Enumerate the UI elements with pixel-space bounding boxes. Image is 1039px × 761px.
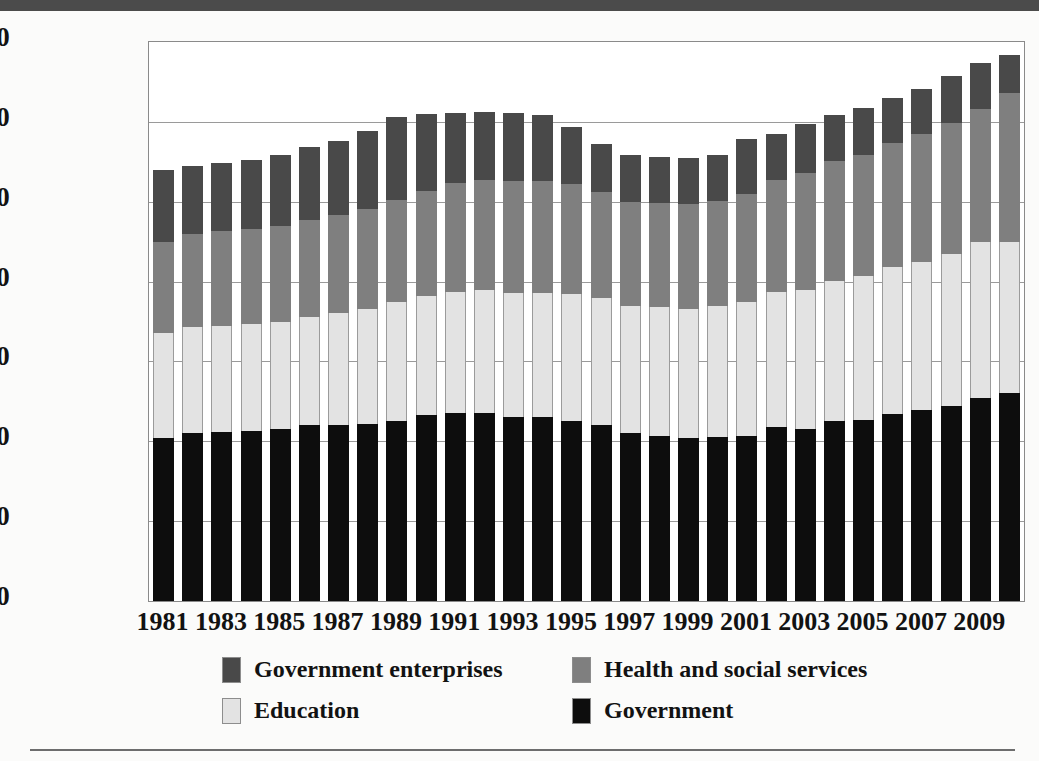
legend-swatch-icon	[572, 657, 591, 683]
bar-segment-government-enterprises	[766, 134, 787, 180]
bar-segment-government-enterprises	[153, 170, 174, 242]
chart-figure: 3,500,0003,000,0002,500,0002,000,0001,50…	[0, 11, 1039, 761]
legend-item-health: Health and social services	[572, 656, 922, 683]
bar-segment-education	[591, 298, 612, 425]
legend-item-education: Education	[222, 697, 572, 724]
bar-segment-education	[474, 290, 495, 413]
bar-segment-health-and-social-services	[445, 183, 466, 292]
bar-1994	[532, 115, 553, 601]
bar-2002	[766, 134, 787, 601]
legend-item-enterprises: Government enterprises	[222, 656, 572, 683]
bar-segment-education	[678, 309, 699, 438]
bar-segment-education	[445, 292, 466, 413]
bar-segment-government	[911, 410, 932, 601]
bar-segment-government	[474, 413, 495, 601]
bar-segment-government-enterprises	[182, 166, 203, 235]
bar-segment-health-and-social-services	[503, 181, 524, 293]
y-axis-tick-label: 1,000,000	[0, 421, 10, 452]
bar-segment-government-enterprises	[211, 163, 232, 232]
bar-segment-government-enterprises	[853, 108, 874, 154]
bar-1991	[445, 113, 466, 601]
bar-segment-government-enterprises	[795, 124, 816, 174]
x-axis-tick-label: 1999	[662, 607, 714, 637]
y-axis-tick-label: 500,000	[0, 501, 10, 532]
legend-label: Government	[604, 697, 733, 724]
bar-segment-government	[328, 425, 349, 601]
x-axis-tick-label: 1981	[137, 607, 189, 637]
legend-label: Health and social services	[604, 656, 867, 683]
bar-1993	[503, 113, 524, 601]
bar-segment-government-enterprises	[591, 144, 612, 192]
bar-1990	[416, 114, 437, 601]
bar-1996	[591, 144, 612, 601]
bar-segment-government-enterprises	[474, 112, 495, 180]
bar-2007	[911, 89, 932, 601]
bar-1986	[299, 147, 320, 601]
bar-segment-government-enterprises	[561, 127, 582, 184]
bar-segment-government-enterprises	[941, 76, 962, 122]
bar-segment-government	[999, 393, 1020, 601]
bar-segment-government	[153, 438, 174, 601]
bar-segment-health-and-social-services	[241, 229, 262, 324]
x-axis-tick-label: 2007	[895, 607, 947, 637]
bar-segment-health-and-social-services	[999, 93, 1020, 242]
bar-segment-education	[270, 322, 291, 430]
bar-segment-government-enterprises	[416, 114, 437, 191]
x-axis-labels: 1981198319851987198919911993199519971999…	[148, 607, 1023, 647]
bar-segment-health-and-social-services	[707, 201, 728, 306]
bar-segment-government	[561, 421, 582, 601]
bar-segment-health-and-social-services	[561, 184, 582, 294]
x-axis-tick-label: 2005	[837, 607, 889, 637]
bar-segment-government-enterprises	[678, 158, 699, 204]
bar-segment-government	[182, 433, 203, 601]
bar-segment-government-enterprises	[532, 115, 553, 181]
x-axis-tick-label: 1997	[603, 607, 655, 637]
x-axis-tick-label: 1983	[195, 607, 247, 637]
bar-segment-government	[299, 425, 320, 601]
x-axis-tick-label: 1995	[545, 607, 597, 637]
bar-segment-government	[649, 436, 670, 601]
page-top-band	[0, 0, 1039, 11]
bar-1999	[678, 158, 699, 601]
bar-segment-government-enterprises	[270, 155, 291, 225]
bar-segment-education	[766, 292, 787, 427]
bar-segment-health-and-social-services	[474, 180, 495, 290]
bar-2008	[941, 76, 962, 601]
bar-segment-education	[532, 293, 553, 418]
bar-segment-health-and-social-services	[970, 109, 991, 242]
y-axis-tick-label: 3,500,000	[0, 22, 10, 53]
bar-segment-government	[620, 433, 641, 601]
bar-segment-government-enterprises	[649, 157, 670, 203]
bar-segment-education	[853, 276, 874, 420]
bar-2003	[795, 124, 816, 602]
y-axis-tick-label: 3,000,000	[0, 102, 10, 133]
x-axis-tick-label: 2001	[720, 607, 772, 637]
bar-segment-education	[182, 327, 203, 433]
bar-segment-education	[299, 317, 320, 426]
bar-segment-government	[211, 432, 232, 601]
bar-segment-health-and-social-services	[649, 203, 670, 307]
bar-segment-government-enterprises	[970, 63, 991, 109]
y-axis-tick-label: 2,500,000	[0, 182, 10, 213]
bar-segment-health-and-social-services	[620, 202, 641, 306]
bar-1982	[182, 166, 203, 601]
bar-segment-government	[824, 421, 845, 601]
bar-segment-health-and-social-services	[328, 215, 349, 313]
bar-segment-education	[736, 302, 757, 435]
bar-segment-government	[795, 429, 816, 601]
bar-segment-government-enterprises	[882, 98, 903, 143]
chart-legend: Government enterprisesHealth and social …	[222, 656, 922, 724]
bar-segment-education	[503, 293, 524, 417]
bar-segment-health-and-social-services	[678, 204, 699, 309]
bar-segment-education	[941, 254, 962, 407]
legend-label: Education	[254, 697, 359, 724]
bar-segment-health-and-social-services	[270, 226, 291, 322]
bar-segment-government	[707, 437, 728, 601]
bar-segment-government	[445, 413, 466, 601]
plot-area	[148, 41, 1025, 602]
bar-2001	[736, 139, 757, 601]
bar-segment-health-and-social-services	[591, 192, 612, 297]
bar-segment-health-and-social-services	[766, 180, 787, 292]
bar-segment-education	[416, 296, 437, 415]
bar-segment-education	[211, 326, 232, 432]
